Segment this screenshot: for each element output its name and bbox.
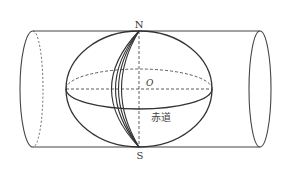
cylinder-projection-diagram: N S O 赤道 (0, 0, 289, 176)
cylinder-right-end (249, 31, 271, 147)
equator-label: 赤道 (151, 111, 171, 123)
south-pole-label: S (137, 150, 144, 161)
globe (66, 31, 212, 147)
cylinder-left-end-back (33, 31, 43, 147)
cylinder (20, 31, 271, 147)
center-label: O (146, 78, 154, 88)
north-pole-label: N (135, 19, 144, 30)
cylinder-left-end-front (20, 31, 33, 147)
